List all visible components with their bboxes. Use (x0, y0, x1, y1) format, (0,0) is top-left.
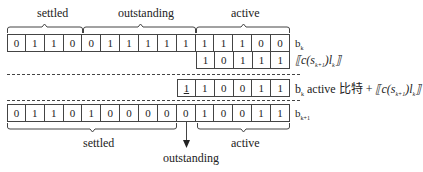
bit-cell: 0 (177, 104, 196, 122)
bit-cell: 1 (120, 34, 139, 52)
carry-label: ⟦c(sk+1)lk⟧ (295, 54, 341, 68)
bit-cell: 0 (7, 104, 26, 122)
separator-dashed-1 (7, 74, 300, 75)
sum-row: 1 1 0 0 1 1 (177, 79, 290, 97)
bit-cell: 0 (158, 104, 177, 122)
sum-label-math-main: ⟦c(s (375, 82, 395, 96)
carry-label-main: ⟦c(s (295, 53, 315, 67)
bottom-active-label: active (231, 137, 260, 149)
bit-cell: 0 (215, 79, 234, 97)
bit-cell: 0 (214, 104, 233, 122)
bit-cell: 1 (26, 104, 45, 122)
top-outstanding-brace (84, 24, 196, 33)
bit-cell: 1 (26, 34, 45, 52)
bit-cell: 1 (196, 51, 215, 69)
bit-cell: 1 (101, 34, 120, 52)
bit-cell: 0 (64, 34, 83, 52)
bk1-row: 0 1 1 0 1 0 0 0 0 0 1 0 0 1 1 (7, 104, 290, 122)
bit-cell: 0 (271, 34, 290, 52)
carry-row: 1 0 1 1 1 (196, 51, 290, 69)
top-active-brace (197, 24, 290, 33)
outstanding-arrow-head (183, 140, 190, 148)
bit-value: 1 (184, 83, 190, 94)
bit-cell: 0 (234, 79, 253, 97)
bit-cell: 1 (271, 51, 290, 69)
bit-cell: 1 (45, 104, 64, 122)
bottom-settled-brace (8, 123, 177, 132)
bit-cell: 1 (196, 104, 215, 122)
bottom-active-brace (198, 123, 290, 132)
bk-row: 0 1 1 0 0 1 1 1 1 1 1 1 1 0 0 (7, 34, 290, 52)
top-settled-brace (8, 24, 83, 33)
bit-cell: 1 (177, 34, 196, 52)
carry-label-sub: k+1 (315, 62, 325, 68)
bk1-label-sub: k+1 (301, 115, 310, 121)
sum-label: bk active 比特 + ⟦c(sk+1)lk⟧ (295, 83, 421, 97)
bit-cell: 1 (158, 34, 177, 52)
bit-cell: 0 (233, 104, 252, 122)
bit-cell: 1 (271, 79, 290, 97)
bit-cell: 0 (215, 51, 234, 69)
bk-label-sub: k (301, 45, 304, 51)
bit-cell: 1 (214, 34, 233, 52)
bit-cell: 0 (120, 104, 139, 122)
bit-cell: 1 (233, 34, 252, 52)
sum-label-math-end: ⟧ (415, 82, 421, 96)
bottom-outstanding-label: outstanding (163, 152, 219, 164)
bit-cell: 0 (64, 104, 83, 122)
bit-cell: 1 (82, 104, 101, 122)
bit-cell: 1 (45, 34, 64, 52)
sum-label-text: active 比特 + (304, 82, 375, 96)
bk1-label: bk+1 (295, 108, 310, 121)
bit-cell-underlined: 1 (177, 79, 196, 97)
carry-label-end: ⟧ (335, 53, 341, 67)
bit-cell: 1 (234, 51, 253, 69)
bit-cell: 0 (82, 34, 101, 52)
bit-cell: 1 (252, 79, 271, 97)
carry-label-tail: )l (325, 53, 332, 67)
bit-cell: 0 (252, 34, 271, 52)
bit-cell: 1 (271, 104, 290, 122)
bit-cell: 1 (252, 104, 271, 122)
bit-cell: 1 (196, 34, 215, 52)
bit-cell: 1 (139, 34, 158, 52)
bit-cell: 1 (196, 79, 215, 97)
sum-label-math-sub: k+1 (395, 91, 405, 97)
bottom-settled-label: settled (83, 137, 114, 149)
sum-label-math: ⟦c(sk+1)lk⟧ (375, 82, 421, 96)
bk-label: bk (295, 38, 304, 51)
bit-cell: 0 (101, 104, 120, 122)
bit-cell: 1 (253, 51, 272, 69)
bit-cell: 0 (7, 34, 26, 52)
separator-dashed-2 (7, 100, 300, 101)
bit-cell: 0 (139, 104, 158, 122)
